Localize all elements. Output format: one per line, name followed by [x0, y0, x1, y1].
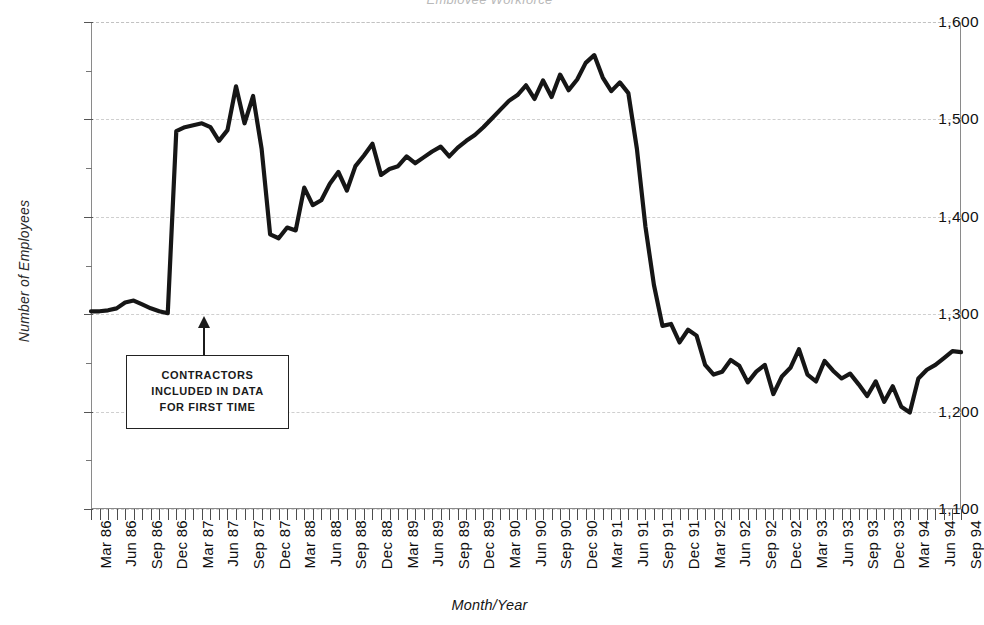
x-tick-label-dec-87: Dec 87 — [276, 520, 293, 569]
gridline-1400 — [91, 217, 961, 218]
gridline-1500 — [91, 119, 961, 120]
x-tick — [398, 509, 399, 520]
x-tick — [236, 509, 237, 520]
x-tick-label-sep-87: Sep 87 — [250, 520, 267, 569]
x-tick — [458, 509, 459, 520]
x-tick-label-sep-88: Sep 88 — [352, 520, 369, 569]
x-tick-label-mar-90: Mar 90 — [506, 520, 523, 569]
x-tick-label-sep-93: Sep 93 — [864, 520, 881, 569]
x-tick — [560, 509, 561, 520]
x-tick — [799, 509, 800, 520]
x-tick-label-dec-88: Dec 88 — [378, 520, 395, 569]
x-tick — [944, 509, 945, 520]
x-tick-label-jun-86: Jun 86 — [122, 520, 139, 567]
x-tick — [313, 509, 314, 520]
x-tick — [466, 509, 467, 520]
x-tick-label-jun-91: Jun 91 — [634, 520, 651, 567]
x-tick-label-mar-86: Mar 86 — [97, 520, 114, 569]
x-tick — [671, 509, 672, 520]
x-tick-label-mar-93: Mar 93 — [813, 520, 830, 569]
x-tick — [151, 509, 152, 520]
y-tick-1300 — [84, 314, 93, 315]
x-tick — [935, 509, 936, 520]
x-tick — [117, 509, 118, 520]
x-tick — [100, 509, 101, 520]
x-tick — [219, 509, 220, 520]
x-tick — [543, 509, 544, 520]
y-minor-tick-1550 — [86, 71, 92, 72]
x-tick-label-jun-92: Jun 92 — [736, 520, 753, 567]
x-tick — [620, 509, 621, 520]
x-tick — [202, 509, 203, 520]
y-minor-tick-1250 — [86, 363, 92, 364]
x-tick-label-mar-87: Mar 87 — [199, 520, 216, 569]
x-tick — [415, 509, 416, 520]
x-tick — [296, 509, 297, 520]
x-tick — [628, 509, 629, 520]
y-axis-title: Number of Employees — [16, 151, 32, 391]
y-tick-label-1500: 1,500 — [905, 110, 979, 128]
x-tick — [748, 509, 749, 520]
x-tick — [509, 509, 510, 520]
annotation-line-1: CONTRACTORS — [162, 369, 254, 383]
x-tick — [279, 509, 280, 520]
x-tick — [773, 509, 774, 520]
x-tick-label-sep-92: Sep 92 — [762, 520, 779, 569]
x-tick — [807, 509, 808, 520]
x-tick — [867, 509, 868, 520]
x-tick — [210, 509, 211, 520]
x-tick — [825, 509, 826, 520]
x-tick — [108, 509, 109, 520]
x-tick — [645, 509, 646, 520]
x-tick — [304, 509, 305, 520]
x-tick — [449, 509, 450, 520]
x-tick — [168, 509, 169, 520]
x-tick-label-sep-89: Sep 89 — [455, 520, 472, 569]
x-tick — [355, 509, 356, 520]
x-tick — [961, 509, 962, 520]
x-tick-label-sep-86: Sep 86 — [148, 520, 165, 569]
x-tick-label-mar-91: Mar 91 — [608, 520, 625, 569]
x-tick — [227, 509, 228, 520]
annotation-line-2: INCLUDED IN DATA — [151, 385, 263, 399]
x-tick-label-dec-89: Dec 89 — [480, 520, 497, 569]
x-tick-label-mar-89: Mar 89 — [404, 520, 421, 569]
x-tick-label-jun-94: Jun 94 — [941, 520, 958, 567]
x-tick — [688, 509, 689, 520]
x-tick — [842, 509, 843, 520]
x-tick-label-sep-90: Sep 90 — [557, 520, 574, 569]
x-tick — [526, 509, 527, 520]
x-tick-label-jun-93: Jun 93 — [839, 520, 856, 567]
x-tick — [245, 509, 246, 520]
x-tick — [918, 509, 919, 520]
y-tick-label-1200: 1,200 — [905, 403, 979, 421]
x-tick — [193, 509, 194, 520]
gridline-1600 — [91, 22, 961, 23]
x-tick — [901, 509, 902, 520]
x-tick — [952, 509, 953, 520]
x-tick — [697, 509, 698, 520]
x-axis-title: Month/Year — [0, 597, 979, 613]
x-tick — [91, 509, 92, 520]
x-tick-label-jun-88: Jun 88 — [327, 520, 344, 567]
x-tick — [782, 509, 783, 520]
x-tick — [654, 509, 655, 520]
y-minor-tick-1350 — [86, 266, 92, 267]
y-minor-tick-1450 — [86, 168, 92, 169]
x-tick — [662, 509, 663, 520]
x-tick — [594, 509, 595, 520]
x-tick — [338, 509, 339, 520]
x-tick — [722, 509, 723, 520]
y-tick-1200 — [84, 412, 93, 413]
annotation-contractors-included: CONTRACTORS INCLUDED IN DATA FOR FIRST T… — [126, 355, 289, 429]
x-tick — [876, 509, 877, 520]
x-tick-label-sep-94: Sep 94 — [967, 520, 984, 569]
x-tick — [893, 509, 894, 520]
y-minor-tick-1150 — [86, 460, 92, 461]
x-tick — [492, 509, 493, 520]
x-tick — [287, 509, 288, 520]
x-tick — [330, 509, 331, 520]
x-tick — [185, 509, 186, 520]
x-tick — [765, 509, 766, 520]
x-tick — [739, 509, 740, 520]
